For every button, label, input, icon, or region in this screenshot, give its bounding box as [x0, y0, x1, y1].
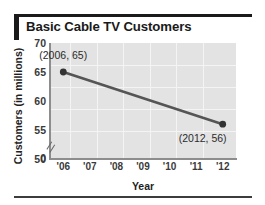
x-tick-label: '08 — [101, 162, 131, 172]
x-tick-label: '07 — [75, 162, 105, 172]
x-tick-label: '11 — [181, 162, 211, 172]
y-tick-label: 60 — [2, 96, 46, 107]
data-point-label: (2012, 56) — [179, 133, 227, 144]
gridline-vertical — [150, 43, 151, 159]
gridline-horizontal — [50, 109, 236, 110]
x-tick-label: '06 — [48, 162, 78, 172]
title-top-rule — [14, 14, 252, 17]
gridline-horizontal — [50, 65, 236, 66]
y-tick-label: 55 — [2, 125, 46, 136]
x-tick-label: '12 — [208, 162, 238, 172]
gridline-vertical — [176, 43, 177, 159]
x-axis-line — [49, 158, 237, 160]
footer-rule — [14, 196, 252, 198]
y-tick-label: 0 — [2, 153, 46, 164]
x-tick-label: '10 — [155, 162, 185, 172]
gridline-vertical — [123, 43, 124, 159]
y-tick-label: 70 — [2, 38, 46, 49]
gridline-vertical — [97, 43, 98, 159]
y-tick-label: 65 — [2, 67, 46, 78]
y-axis-title: Customers (in millions) — [12, 41, 24, 171]
data-point-label: (2006, 65) — [39, 50, 87, 61]
gridline-horizontal — [50, 87, 236, 88]
x-tick-label: '09 — [128, 162, 158, 172]
page-title: Basic Cable TV Customers — [26, 19, 191, 34]
x-axis-title: Year — [50, 180, 236, 192]
